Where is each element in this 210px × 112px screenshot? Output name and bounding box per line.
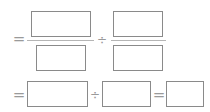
right-denominator-box[interactable]: [113, 45, 163, 71]
right-fraction-bar: [111, 40, 166, 41]
result-box[interactable]: [166, 81, 204, 107]
answer-box-1[interactable]: [27, 81, 88, 107]
left-denominator-box[interactable]: [36, 45, 86, 71]
right-numerator-box[interactable]: [113, 11, 163, 37]
answer-box-2[interactable]: [102, 81, 151, 107]
equals-sign: =: [152, 88, 166, 103]
left-fraction-bar: [27, 40, 94, 41]
equals-sign: =: [12, 32, 26, 47]
divide-sign: ÷: [89, 89, 101, 101]
divide-sign: ÷: [96, 34, 108, 46]
equals-sign: =: [12, 88, 26, 103]
left-numerator-box[interactable]: [31, 11, 91, 37]
